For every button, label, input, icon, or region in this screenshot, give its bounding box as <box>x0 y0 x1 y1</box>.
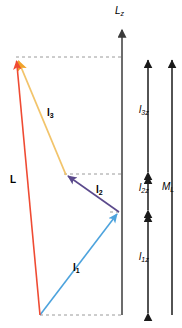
vector-diagram: l1 l2 l3 L Lz l3z l2z l1z ML <box>0 0 182 328</box>
vector-label-l3-sub: 3 <box>50 112 54 119</box>
measure-label-ML-sub: L <box>170 186 174 193</box>
vector-label-l1-sub: 1 <box>76 267 80 274</box>
vector-label-l2: l2 <box>96 185 103 195</box>
vector-label-L: L <box>10 175 16 185</box>
vector-arrows <box>17 61 119 315</box>
axis-label-Lz-sub: z <box>121 10 125 17</box>
vector-label-L-text: L <box>10 174 16 185</box>
measure-label-l3z: l3z <box>139 105 149 115</box>
vector-label-l1: l1 <box>73 263 80 273</box>
measure-label-l3z-sub: 3z <box>141 109 148 116</box>
vector-arrow-l2 <box>68 176 119 212</box>
axis-label-Lz: Lz <box>115 6 124 16</box>
measure-label-l2z: l2z <box>139 183 149 193</box>
measure-label-l1z: l1z <box>139 252 149 262</box>
measure-label-l1z-sub: 1z <box>141 256 148 263</box>
measure-label-l2z-sub: 2z <box>141 187 148 194</box>
vector-label-l3: l3 <box>47 108 54 118</box>
measure-label-ML: ML <box>162 182 174 192</box>
vector-arrow-L <box>17 61 40 315</box>
axis-label-Lz-text: L <box>115 5 121 16</box>
vector-label-l2-sub: 2 <box>99 189 103 196</box>
diagram-canvas <box>0 0 182 328</box>
